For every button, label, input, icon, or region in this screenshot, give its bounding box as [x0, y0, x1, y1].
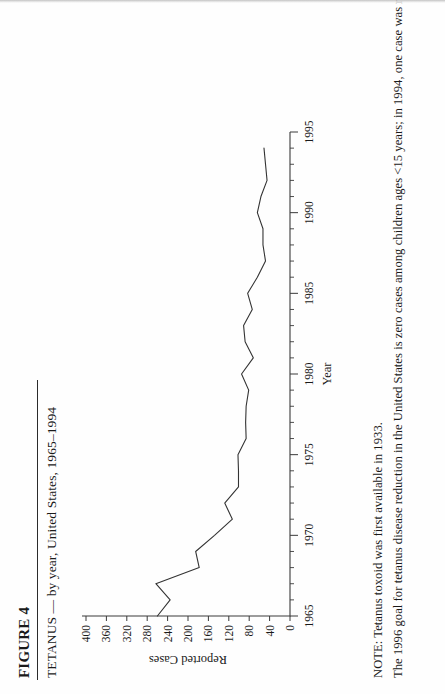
x-tick-label: 1985 — [303, 282, 315, 305]
figure-rule — [37, 380, 38, 680]
y-axis-title: Reported Cases — [149, 653, 227, 667]
y-tick-label: 320 — [121, 625, 133, 643]
y-axis-title-group: Reported Cases — [149, 653, 227, 667]
x-tick-label: 1970 — [303, 524, 315, 547]
x-tick-label: 1990 — [303, 201, 315, 224]
figure-label: FIGURE 4 — [16, 607, 33, 678]
x-tick-label: 1995 — [303, 120, 315, 143]
figure-notes: NOTE: Tetanus toxoid was first available… — [368, 23, 418, 678]
note-line-1: NOTE: Tetanus toxoid was first available… — [368, 23, 388, 678]
note-line-2: The 1996 goal for tetanus disease reduct… — [388, 23, 408, 678]
x-tick-label: 1975 — [303, 443, 315, 466]
figure-title: TETANUS — by year, United States, 1965–1… — [44, 407, 60, 678]
series-line — [156, 148, 267, 616]
y-tick-label: 280 — [141, 625, 153, 643]
y-tick-label: 40 — [264, 625, 276, 637]
scanned-page: FIGURE 4 TETANUS — by year, United State… — [0, 0, 445, 694]
x-tick-label: 1965 — [303, 604, 315, 627]
y-tick-label: 160 — [202, 625, 214, 643]
tetanus-line-chart: 0408012016020024028032036040019651970197… — [76, 118, 344, 678]
y-tick-label: 360 — [100, 625, 112, 643]
note-line-3 — [408, 23, 418, 678]
x-tick-label: 1980 — [303, 362, 315, 385]
y-tick-label: 240 — [162, 625, 174, 643]
chart-canvas: 0408012016020024028032036040019651970197… — [76, 118, 344, 678]
y-tick-label: 120 — [223, 625, 235, 643]
x-axis-title: Year — [320, 362, 334, 386]
y-tick-label: 0 — [284, 625, 296, 631]
y-tick-label: 200 — [182, 625, 194, 643]
y-tick-label: 400 — [80, 625, 92, 643]
note-line-3-clipped — [408, 23, 418, 678]
y-tick-label: 80 — [243, 625, 255, 637]
